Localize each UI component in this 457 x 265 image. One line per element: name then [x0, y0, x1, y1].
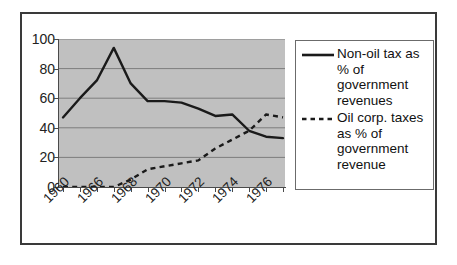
- dashed-line-sample-icon: [301, 110, 335, 128]
- x-tick-label-1976: 1976: [244, 175, 275, 206]
- x-tick-label-1968: 1968: [109, 175, 140, 206]
- x-tick-label-1970: 1970: [143, 175, 174, 206]
- x-tick-label-1960: 1960: [41, 175, 72, 206]
- solid-line-sample-icon: [301, 46, 335, 64]
- figure-root: 100 80 60 40 20 0 1960196619681970197219…: [0, 0, 457, 265]
- legend-label-non-oil-tax: Non-oil tax as % of government revenues: [337, 46, 429, 108]
- x-tick-label-1972: 1972: [176, 175, 207, 206]
- x-tick-label-1966: 1966: [75, 175, 106, 206]
- chart-frame: 100 80 60 40 20 0 1960196619681970197219…: [20, 12, 437, 245]
- legend-label-oil-corp-taxes: Oil corp. taxes as % of government reven…: [337, 110, 429, 172]
- legend-entry-non-oil-tax: Non-oil tax as % of government revenues: [296, 45, 433, 109]
- legend-entry-oil-corp-taxes: Oil corp. taxes as % of government reven…: [296, 109, 433, 173]
- legend: Non-oil tax as % of government revenues …: [295, 40, 434, 190]
- x-tick-label-1974: 1974: [210, 175, 241, 206]
